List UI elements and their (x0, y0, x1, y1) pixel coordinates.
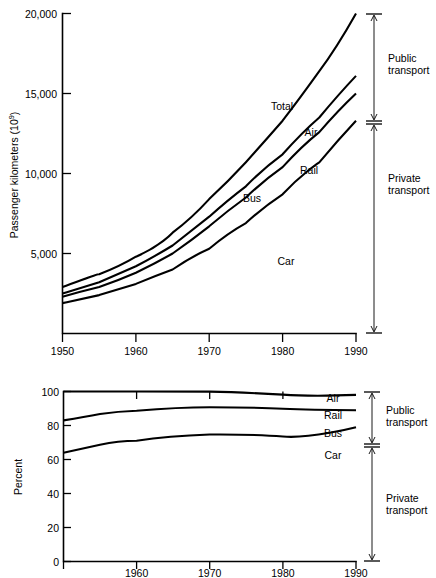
upper-xtick-1990: 1990 (344, 345, 368, 357)
lower-bracket-private-line2: transport (386, 504, 428, 516)
lower-ytick-20: 20 (47, 522, 59, 534)
upper-curve-total (63, 14, 357, 288)
lower-bracket-private: Private transport (364, 447, 428, 561)
lower-y-axis-title: Percent (12, 459, 24, 495)
upper-bracket-private: Private transport (366, 124, 430, 333)
upper-xtick-1980: 1980 (271, 345, 295, 357)
upper-y-axis-title-close: ) (8, 112, 20, 116)
upper-y-axis-title: Passenger kilometers (109) (7, 112, 20, 239)
lower-ytick-80: 80 (47, 420, 59, 432)
upper-chart: 20,000 15,000 10,000 5,000 Passenger kil… (7, 8, 430, 358)
lower-xtick-1990: 1990 (344, 567, 368, 578)
upper-bracket-public-line2: transport (388, 64, 430, 76)
upper-xtick-1970: 1970 (198, 345, 222, 357)
upper-label-bus: Bus (243, 192, 261, 204)
lower-bracket-public-line2: transport (386, 416, 428, 428)
lower-chart: 100 80 60 40 20 0 Percent 1960 1970 1980 (12, 386, 428, 578)
lower-label-bus: Bus (324, 427, 342, 439)
transport-figure: 20,000 15,000 10,000 5,000 Passenger kil… (0, 0, 436, 578)
lower-xtick-1970: 1970 (198, 567, 222, 578)
upper-label-air: Air (305, 126, 318, 138)
lower-bracket-private-line1: Private (386, 492, 419, 504)
lower-y-axis-title-text: Percent (12, 459, 24, 495)
upper-bracket-public-line1: Public (388, 52, 417, 64)
lower-xtick-1960: 1960 (125, 567, 149, 578)
svg-text:Passenger kilometers (109): Passenger kilometers (109) (7, 112, 20, 239)
upper-label-car: Car (278, 255, 295, 267)
upper-ytick-20000: 20,000 (25, 8, 57, 20)
lower-axes (64, 392, 357, 562)
upper-ytick-15000: 15,000 (25, 88, 57, 100)
upper-x-ticks (63, 334, 357, 343)
upper-xtick-1960: 1960 (124, 345, 148, 357)
upper-y-axis-title-base: Passenger kilometers (10 (8, 119, 20, 238)
lower-curve-rail (64, 407, 357, 420)
lower-curve-bus (64, 427, 357, 453)
upper-label-rail: Rail (300, 164, 318, 176)
upper-y-ticks (63, 14, 72, 254)
lower-ytick-60: 60 (47, 454, 59, 466)
upper-curve-air (63, 76, 357, 294)
upper-curve-bus (63, 121, 357, 303)
lower-y-ticks (64, 392, 72, 562)
lower-label-car: Car (325, 449, 342, 461)
upper-xtick-1950: 1950 (51, 345, 75, 357)
upper-bracket-private-line1: Private (388, 172, 421, 184)
lower-ytick-40: 40 (47, 488, 59, 500)
lower-ytick-0: 0 (53, 556, 59, 568)
upper-label-total: Total (271, 100, 293, 112)
upper-bracket-public: Public transport (366, 14, 430, 121)
figure-root: 20,000 15,000 10,000 5,000 Passenger kil… (0, 0, 436, 578)
upper-ytick-5000: 5,000 (31, 248, 57, 260)
lower-label-rail: Rail (324, 409, 342, 421)
lower-bracket-public-line1: Public (386, 404, 415, 416)
upper-bracket-private-line2: transport (388, 184, 430, 196)
lower-ytick-100: 100 (41, 386, 59, 398)
lower-xtick-1980: 1980 (271, 567, 295, 578)
lower-label-air: Air (327, 392, 340, 404)
upper-ytick-10000: 10,000 (25, 168, 57, 180)
lower-bracket-public: Public transport (364, 392, 428, 444)
